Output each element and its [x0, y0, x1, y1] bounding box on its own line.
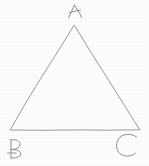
vertex-label-b-glyph: [8, 140, 21, 159]
vertex-label-a-glyph: [69, 5, 82, 18]
triangle-edge-bc: [10, 130, 140, 131]
triangle-figure: [0, 0, 149, 166]
triangle-interior: [10, 25, 140, 130]
sketch-canvas: A B C: [0, 0, 149, 166]
vertex-label-c-glyph: [117, 134, 137, 156]
